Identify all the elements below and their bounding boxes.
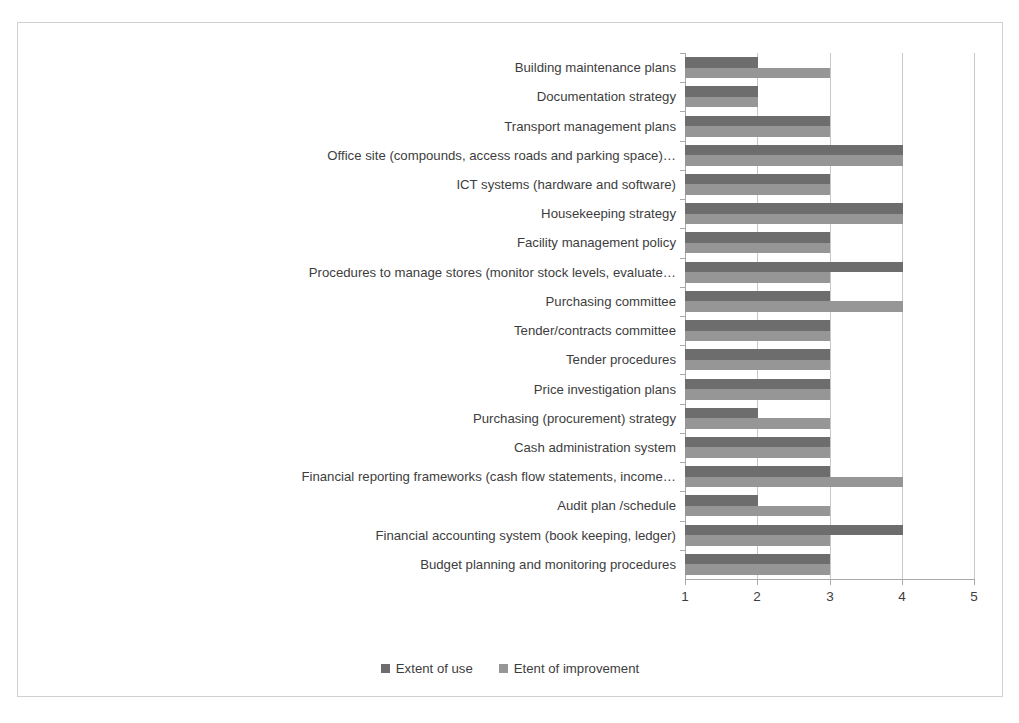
legend-swatch-icon [381,664,390,673]
bar-extent-of-improvement [685,447,830,458]
bar-extent-of-improvement [685,331,830,342]
x-tick-label: 4 [898,589,906,604]
bar-extent-of-improvement [685,535,830,546]
bar-row: Price investigation plans [685,374,975,403]
category-label: Financial accounting system (book keepin… [375,529,676,542]
category-tick [680,521,685,522]
bar-row: Building maintenance plans [685,53,975,82]
bar-extent-of-improvement [685,564,830,575]
bar-row: Facility management policy [685,228,975,257]
category-tick [680,111,685,112]
bar-row: Transport management plans [685,111,975,140]
category-tick [680,82,685,83]
bar-extent-of-use [685,291,830,302]
category-tick [680,433,685,434]
category-label: Financial reporting frameworks (cash flo… [301,470,676,483]
category-label: Office site (compounds, access roads and… [327,149,676,162]
bar-row: Financial reporting frameworks (cash flo… [685,462,975,491]
legend-item-extent-of-use[interactable]: Extent of use [381,661,473,676]
x-tick-label: 2 [753,589,761,604]
x-tick-4 [902,579,903,585]
bar-extent-of-improvement [685,68,830,79]
bar-extent-of-improvement [685,97,758,108]
x-tick-3 [830,579,831,585]
bar-extent-of-use [685,466,830,477]
bar-extent-of-improvement [685,272,830,283]
category-tick [680,53,685,54]
category-tick [680,404,685,405]
x-tick-label: 5 [970,589,978,604]
legend-item-extent-of-improvement[interactable]: Etent of improvement [499,661,639,676]
bar-row: Purchasing committee [685,287,975,316]
plot-area: 1 2 3 4 5 Budget planning and monitoring… [685,53,975,579]
legend-label: Extent of use [396,661,473,676]
category-label: Transport management plans [504,120,676,133]
x-tick-label: 1 [681,589,689,604]
bar-extent-of-improvement [685,389,830,400]
category-tick [680,258,685,259]
category-label: Procedures to manage stores (monitor sto… [309,266,676,279]
category-label: Cash administration system [514,441,676,454]
category-label: Tender procedures [566,353,676,366]
bar-extent-of-improvement [685,506,830,517]
bar-extent-of-improvement [685,155,903,166]
category-label: Purchasing (procurement) strategy [473,412,676,425]
bar-row: Procedures to manage stores (monitor sto… [685,258,975,287]
category-label: ICT systems (hardware and software) [456,178,676,191]
bar-extent-of-improvement [685,301,903,312]
bar-extent-of-use [685,408,758,419]
bar-extent-of-improvement [685,418,830,429]
category-label: Budget planning and monitoring procedure… [420,558,676,571]
x-tick-1 [685,579,686,585]
category-label: Purchasing committee [546,295,676,308]
bar-row: Tender/contracts committee [685,316,975,345]
bar-extent-of-use [685,262,903,273]
bar-extent-of-use [685,174,830,185]
category-label: Tender/contracts committee [514,324,676,337]
bar-extent-of-use [685,232,830,243]
bar-extent-of-use [685,57,758,68]
category-tick [680,345,685,346]
bar-extent-of-use [685,349,830,360]
category-label: Facility management policy [517,236,676,249]
bar-extent-of-improvement [685,214,903,225]
category-tick [680,141,685,142]
category-tick [680,170,685,171]
x-tick-label: 3 [826,589,834,604]
bar-extent-of-use [685,379,830,390]
legend-swatch-icon [499,664,508,673]
category-label: Building maintenance plans [515,61,676,74]
bar-extent-of-improvement [685,243,830,254]
legend-label: Etent of improvement [514,661,639,676]
bar-row: Financial accounting system (book keepin… [685,521,975,550]
category-label: Documentation strategy [537,90,676,103]
category-tick [680,550,685,551]
bar-row: Office site (compounds, access roads and… [685,141,975,170]
bar-extent-of-use [685,86,758,97]
bar-extent-of-improvement [685,360,830,371]
category-tick [680,228,685,229]
category-label: Housekeeping strategy [541,207,676,220]
category-tick [680,462,685,463]
category-tick [680,374,685,375]
bar-extent-of-use [685,116,830,127]
chart-frame: 1 2 3 4 5 Budget planning and monitoring… [17,22,1003,697]
bar-extent-of-use [685,145,903,156]
bar-row: Housekeeping strategy [685,199,975,228]
category-tick [680,287,685,288]
bar-row: Tender procedures [685,345,975,374]
bar-extent-of-use [685,437,830,448]
bar-extent-of-use [685,203,903,214]
bar-row: ICT systems (hardware and software) [685,170,975,199]
bar-extent-of-improvement [685,477,903,488]
x-tick-2 [757,579,758,585]
bar-row: Audit plan /schedule [685,491,975,520]
category-label: Audit plan /schedule [557,499,676,512]
bar-extent-of-use [685,495,758,506]
category-label: Price investigation plans [534,383,676,396]
x-tick-5 [974,579,975,585]
bar-row: Budget planning and monitoring procedure… [685,550,975,579]
chart-legend: Extent of use Etent of improvement [18,661,1002,676]
bar-row: Purchasing (procurement) strategy [685,404,975,433]
category-tick [680,199,685,200]
